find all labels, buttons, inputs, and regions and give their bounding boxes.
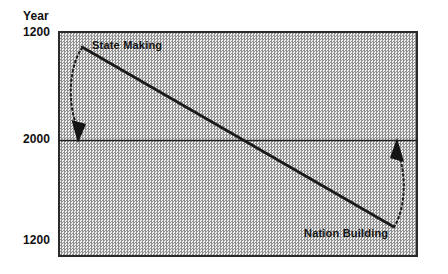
annotation-nation-building: Nation Building [304, 227, 388, 239]
axis-title-year: Year [23, 10, 49, 23]
axis-tick-middle: 2000 [23, 133, 50, 146]
plot-area [58, 31, 418, 257]
diagram-figure: Year 1200 2000 1200 State Making Nation … [0, 0, 448, 274]
axis-tick-bottom: 1200 [23, 234, 50, 247]
annotation-state-making: State Making [92, 39, 162, 51]
axis-tick-top: 1200 [23, 26, 50, 39]
